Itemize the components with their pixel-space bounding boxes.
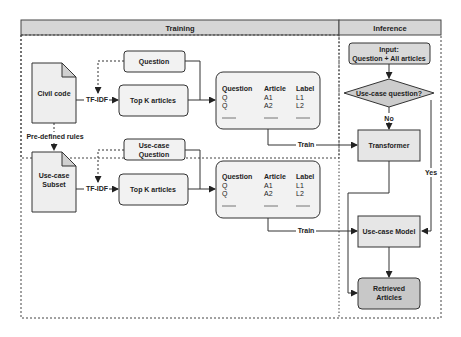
diagram-canvas: Training Inference Civil code Pre-define… [0,0,461,337]
table-bottom-cell: A1 [264,182,273,189]
table-bottom-header-article: Article [264,173,286,180]
training-table-bottom: Question Article Label Q A1 L1 Q A2 L2 [216,161,320,218]
top-k-top-label: Top K articles [130,97,176,105]
use-case-question-box: Use-case Question [124,139,185,160]
use-case-subset-label-1: Use-case [39,172,70,179]
input-label-2: Question + All articles [352,55,426,63]
table-top-header-question: Question [222,85,252,93]
tfidf-top-label: TF-IDF [86,96,109,103]
lane-inference-title: Inference [373,24,406,33]
tfidf-bottom-label: TF-IDF [86,185,109,192]
table-top-header-label: Label [296,85,314,92]
table-bottom-cell: A2 [264,190,273,197]
use-case-model-box: Use-case Model [358,216,420,247]
lane-training-title: Training [165,24,195,33]
top-k-articles-top: Top K articles [119,85,188,116]
predefined-rules-label: Pre-defined rules [26,133,83,140]
use-case-decision: Use-case question? [344,79,434,107]
table-top-cell: A2 [264,102,273,109]
use-case-question-label-1: Use-case [139,142,170,149]
table-top-cell: Q [222,94,228,102]
use-case-subset-doc: Use-case Subset [32,152,76,212]
retrieved-label-1: Retrieved [373,285,405,292]
use-case-subset-label-2: Subset [42,181,66,188]
use-case-question-label-2: Question [139,151,169,159]
top-k-bottom-label: Top K articles [130,186,176,194]
training-table-top: Question Article Label Q A1 L1 Q A2 L2 [216,72,320,129]
table-top-cell: Q [222,102,228,110]
table-top-cell: A1 [264,94,273,101]
table-top-cell: L2 [296,102,304,109]
table-bottom-header-label: Label [296,173,314,180]
question-label: Question [139,58,169,66]
civil-code-doc: Civil code [32,63,76,123]
question-box: Question [124,51,185,72]
table-top-cell: L1 [296,94,304,101]
lane-inference: Inference [339,20,441,35]
transformer-box: Transformer [358,130,420,161]
train-top-label: Train [298,141,315,148]
decision-label: Use-case question? [356,90,422,98]
table-bottom-cell: L2 [296,190,304,197]
retrieved-label-2: Articles [376,294,402,301]
input-label-1: Input: [379,46,398,54]
table-bottom-cell: Q [222,190,228,198]
train-bottom-label: Train [298,227,315,234]
use-case-model-label: Use-case Model [363,228,416,235]
table-bottom-cell: Q [222,182,228,190]
civil-code-label: Civil code [37,90,70,97]
table-top-header-article: Article [264,85,286,92]
top-k-articles-bottom: Top K articles [119,174,188,205]
table-bottom-header-question: Question [222,173,252,181]
no-label: No [384,115,393,122]
yes-label: Yes [425,169,437,176]
table-bottom-cell: L1 [296,182,304,189]
retrieved-articles-box: Retrieved Articles [358,278,420,309]
transformer-label: Transformer [369,142,410,149]
input-box: Input: Question + All articles [349,43,430,64]
